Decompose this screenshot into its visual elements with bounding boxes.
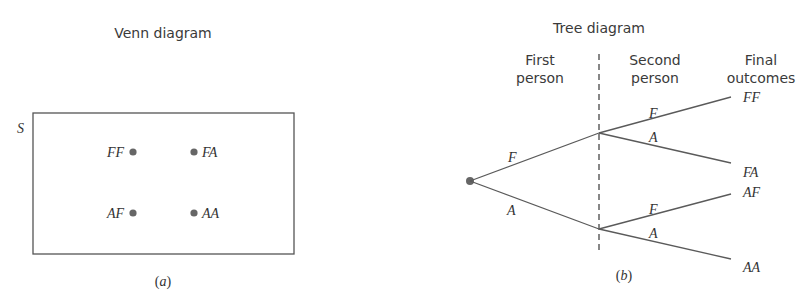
header-first-line2: person	[516, 70, 564, 86]
tree-title: Tree diagram	[552, 20, 645, 36]
point-aa-dot	[190, 209, 197, 216]
venn-title: Venn diagram	[114, 25, 212, 41]
branch-second-af	[599, 194, 731, 229]
venn-diagram: Venn diagram S FF FA AF AA (a)	[17, 25, 294, 290]
sample-space-label: S	[17, 121, 24, 136]
branch-first-a-label: A	[506, 203, 516, 218]
header-first-line1: First	[525, 52, 555, 68]
outcome-fa: FA	[742, 165, 759, 180]
header-second-line2: person	[631, 70, 679, 86]
point-ff-dot	[129, 148, 136, 155]
header-second-line1: Second	[629, 52, 681, 68]
figure-svg: Venn diagram S FF FA AF AA (a) Tree diag…	[0, 0, 796, 296]
branch-first-f-label: F	[507, 150, 517, 165]
outcome-aa: AA	[742, 260, 761, 275]
point-af-dot	[129, 209, 136, 216]
branch-second-aa	[599, 229, 731, 259]
point-af-label: AF	[106, 206, 125, 221]
header-final-line2: outcomes	[727, 70, 796, 86]
venn-caption: (a)	[155, 274, 172, 290]
point-aa-label: AA	[201, 206, 220, 221]
outcome-ff: FF	[742, 90, 761, 105]
branch-first-f	[470, 133, 599, 181]
tree-caption: (b)	[616, 268, 633, 284]
branch-second-aa-label: A	[648, 226, 658, 241]
branch-second-fa	[599, 133, 731, 163]
branch-second-af-label: F	[648, 202, 658, 217]
branch-second-ff	[599, 97, 731, 133]
branch-second-fa-label: A	[648, 130, 658, 145]
point-ff-label: FF	[106, 145, 125, 160]
tree-diagram: Tree diagram First person Second person …	[466, 20, 795, 284]
header-final-line1: Final	[745, 52, 777, 68]
outcome-af: AF	[742, 185, 761, 200]
point-fa-dot	[190, 148, 197, 155]
sample-space-rect	[33, 113, 294, 254]
branch-first-a	[470, 181, 599, 229]
branch-second-ff-label: F	[648, 106, 658, 121]
figure-canvas: Venn diagram S FF FA AF AA (a) Tree diag…	[0, 0, 796, 296]
point-fa-label: FA	[201, 145, 218, 160]
